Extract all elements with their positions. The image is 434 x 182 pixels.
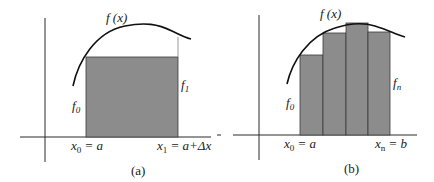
f0-label: f0 [286,95,295,112]
f1-label: f1 [181,77,189,94]
riemann-sum-diagram: f (x) f0 f1 x0 = a x1 = a+Δx (a) f (x) f… [0,0,434,182]
x0-label: x0 = a [70,138,104,155]
rectangle [86,57,178,137]
bar-2 [323,33,346,135]
bar-4 [368,32,390,135]
curve-label: f (x) [106,10,127,25]
caption-b: (b) [344,161,359,176]
x1-label: x1 = a+Δx [156,138,211,155]
x0-label: x0 = a [283,136,317,153]
caption-a: (a) [131,163,145,178]
bar-1 [300,55,323,135]
curve-label: f (x) [320,6,341,21]
panel-b: f (x) f0 fn x0 = a xn = b (b) [217,6,417,176]
f0-label: f0 [72,98,81,115]
fn-label: fn [393,75,402,92]
panel-a: f (x) f0 f1 x0 = a x1 = a+Δx (a) [20,10,211,178]
xn-label: xn = b [374,136,408,153]
bar-3 [346,23,368,135]
